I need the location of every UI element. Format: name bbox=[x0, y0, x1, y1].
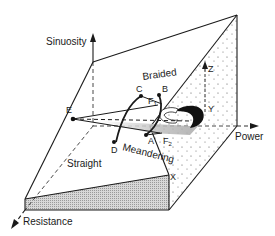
point-d-label: D bbox=[111, 145, 118, 155]
point-c-marker bbox=[139, 94, 143, 98]
resistance-axis-label: Resistance bbox=[23, 216, 73, 227]
power-axis-label: Power bbox=[235, 131, 264, 142]
point-e-label: E bbox=[66, 105, 72, 115]
sinuosity-axis-label: Sinuosity bbox=[46, 36, 87, 47]
threshold-f1-label: F1 bbox=[148, 96, 158, 107]
point-x-label: X bbox=[170, 172, 176, 182]
river-channel-pattern-diagram: Sinuosity Power Resistance bbox=[0, 0, 275, 236]
point-a-label: A bbox=[148, 136, 154, 146]
point-e-marker bbox=[71, 117, 76, 122]
point-y-label: Y bbox=[208, 104, 214, 114]
region-straight-label: Straight bbox=[67, 158, 102, 169]
power-axis-arrow bbox=[237, 123, 259, 129]
region-braided-label: Braided bbox=[142, 66, 178, 82]
sinuosity-axis-arrow bbox=[90, 33, 96, 62]
point-b-label: B bbox=[162, 84, 168, 94]
bottom-shaded-face bbox=[25, 175, 169, 210]
point-z-label: Z bbox=[208, 64, 214, 74]
point-b-marker bbox=[157, 93, 161, 97]
point-c-label: C bbox=[136, 84, 143, 94]
point-d-marker bbox=[112, 140, 116, 144]
